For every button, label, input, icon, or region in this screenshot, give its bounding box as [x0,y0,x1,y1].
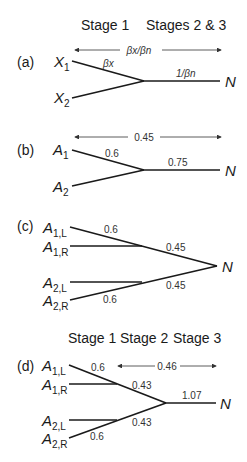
node-n: N [220,395,231,412]
node-a1l: A1,L [41,357,66,377]
panel-c-label: (c) [17,218,33,234]
mid-weight-bottom: 0.43 [132,417,152,428]
header-stage-2: Stage 2 [120,330,168,346]
node-a2r: A2,R [41,430,68,450]
node-x1: X1 [53,53,70,73]
branch-weight-top: 0.6 [104,224,118,235]
panel-c: (c) A1,L A1,R A2,L A2,R 0.6 0.45 0.45 0.… [17,218,233,312]
header-stage-1-bottom: Stage 1 [68,330,116,346]
node-n: N [225,73,236,90]
branch-weight: 0.6 [105,148,119,159]
node-a2l: A2,L [41,412,66,432]
trunk-weight: 0.75 [168,157,188,168]
stage-diagram: Stage 1 Stages 2 & 3 (a) βx/βn X1 X2 βx … [0,0,247,462]
header-stages-2-3: Stages 2 & 3 [146,17,226,33]
trunk-weight: 1/βn [176,68,196,79]
branch-weight-bottom: 0.6 [103,294,117,305]
node-a1r: A1,R [41,376,68,396]
panel-a-label: (a) [17,54,34,70]
span-label: βx/βn [126,45,152,56]
span-label: 0.45 [134,132,154,143]
branch-weight: βx [102,58,115,69]
panel-b: (b) 0.45 A1 A2 0.6 0.75 N [17,132,236,198]
branch-weight-top: 0.6 [91,362,105,373]
panel-d: (d) 0.46 A1,L A1,R A2,L A2,R 0.6 0.43 0.… [17,357,231,450]
node-n: N [225,162,236,179]
edge-x2 [72,81,144,98]
node-x2: X2 [53,89,70,109]
trunk-weight-bottom: 0.45 [166,280,186,291]
node-a2l: A2,L [42,274,67,294]
mid-weight-top: 0.43 [132,380,152,391]
branch-weight-bottom: 0.6 [90,431,104,442]
header-stage-1: Stage 1 [81,17,129,33]
header-stage-3: Stage 3 [173,330,221,346]
trunk-weight: 1.07 [182,390,202,401]
node-a1l: A1,L [42,219,67,239]
node-n: N [222,258,233,275]
node-a2r: A2,R [42,292,69,312]
panel-a: (a) βx/βn X1 X2 βx 1/βn N [17,45,236,109]
panel-d-label: (d) [17,358,34,374]
edge-a2r-to-n [70,266,217,300]
panel-b-label: (b) [17,142,34,158]
node-a1r: A1,R [42,238,69,258]
span-label: 0.46 [157,361,177,372]
node-a2: A2 [52,178,69,198]
trunk-weight-top: 0.45 [166,242,186,253]
edge-a2 [72,170,144,186]
node-a1: A1 [52,141,69,161]
